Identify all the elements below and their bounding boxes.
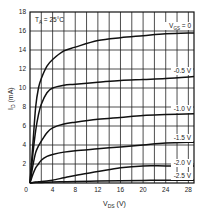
x-tick-label: 20 (139, 186, 147, 193)
x-tick-labels: 0481216202428 (24, 186, 192, 193)
curve-label: -0.5 V (174, 67, 192, 74)
y-tick-label: 14 (19, 46, 27, 53)
x-tick-label: 0 (24, 186, 28, 193)
curve-label: -2.5 V (174, 172, 192, 179)
curve-vgs (30, 33, 194, 183)
x-tick-label: 12 (94, 186, 102, 193)
plot-grid (30, 12, 194, 183)
y-tick-label: 12 (19, 65, 27, 72)
y-tick-label: 4 (22, 141, 26, 148)
x-tick-label: 8 (73, 186, 77, 193)
y-tick-labels: 24681012141618 (19, 8, 27, 167)
y-tick-label: 18 (19, 8, 27, 15)
curve-label: -1.0 V (174, 105, 192, 112)
y-tick-label: 8 (22, 103, 26, 110)
x-tick-label: 28 (185, 186, 193, 193)
fet-output-characteristics-chart: 0481216202428 24681012141618 VGS = 0-0.5… (0, 0, 203, 216)
temperature-annotation: TA = 25°C (35, 16, 64, 25)
plot-frame (30, 12, 194, 183)
curve-label: -2.0 V (174, 159, 192, 166)
y-axis-label: ID (mA) (7, 87, 16, 110)
curve-vgs (30, 142, 194, 183)
curve-vgs (30, 77, 194, 183)
y-tick-label: 6 (22, 122, 26, 129)
x-tick-label: 16 (117, 186, 125, 193)
x-axis-label: VDS (V) (103, 200, 126, 209)
curve-labels: VGS = 0-0.5 V-1.0 V-1.5 V-2.0 V-2.5 V (156, 22, 193, 180)
y-tick-label: 10 (19, 84, 27, 91)
y-tick-label: 2 (22, 160, 26, 167)
curve-label: -1.5 V (174, 134, 192, 141)
curves (30, 33, 194, 183)
y-tick-label: 16 (19, 27, 27, 34)
x-tick-label: 24 (162, 186, 170, 193)
x-tick-label: 4 (51, 186, 55, 193)
